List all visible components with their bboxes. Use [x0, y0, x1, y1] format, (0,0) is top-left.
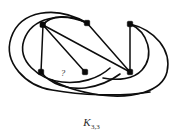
figure-container: ? K3,3 [0, 0, 183, 138]
vertex-b1 [38, 69, 43, 74]
vertex-a2 [84, 20, 89, 25]
vertex-b3 [127, 69, 132, 74]
figure-caption: K3,3 [0, 116, 183, 131]
caption-base: K [83, 116, 91, 128]
vertex-b2 [82, 69, 87, 74]
edge-a1-b3 [43, 25, 130, 72]
region-question-mark-label: ? [57, 69, 69, 78]
edge-curve-right-outer [52, 24, 168, 96]
edge-curve-right-inner [103, 24, 149, 79]
edge-a1-b1 [41, 25, 43, 72]
edge-a2-b3 [87, 23, 130, 72]
vertex-a3 [127, 21, 132, 26]
edge-a1-b2 [43, 25, 85, 72]
caption-subscript: 3,3 [91, 123, 100, 131]
vertex-a1 [40, 22, 45, 27]
